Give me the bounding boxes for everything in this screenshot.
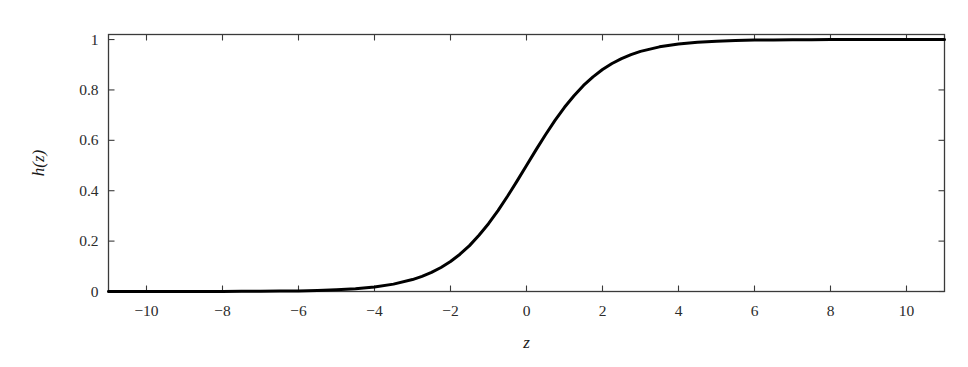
y-tick-label: 0.2: [79, 233, 98, 249]
series-line: [109, 40, 945, 292]
y-tick-label: 1: [91, 32, 99, 48]
x-tick-label: 2: [599, 303, 607, 319]
x-tick-label: −4: [366, 303, 383, 319]
y-tick-label: 0: [91, 284, 99, 300]
x-tick-label: −8: [214, 303, 231, 319]
x-tick-label: 8: [827, 303, 835, 319]
x-axis-label: z: [523, 334, 530, 351]
data-series-group: [109, 40, 945, 292]
x-tick-label: 4: [675, 303, 683, 319]
x-tick-label: 10: [899, 303, 915, 319]
y-tick-label: 0.6: [79, 133, 98, 149]
y-axis-label: h(z): [30, 150, 47, 176]
x-tick-label: 0: [523, 303, 531, 319]
chart-figure: −10−8−6−4−20246810 00.20.40.60.81 z h(z): [0, 0, 968, 367]
x-tick-label: −6: [290, 303, 307, 319]
x-tick-label: 6: [751, 303, 759, 319]
x-tick-label: −10: [134, 303, 158, 319]
y-tick-label: 0.8: [79, 82, 98, 98]
y-tick-label: 0.4: [79, 183, 98, 199]
x-tick-label: −2: [442, 303, 459, 319]
